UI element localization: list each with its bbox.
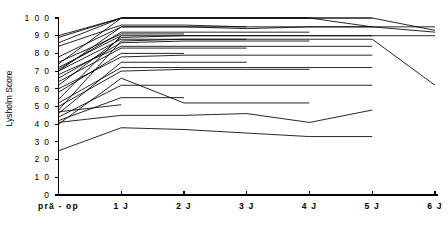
chart-canvas: 01 02 03 04 05 06 07 08 09 01 0 0 Lyshol… <box>0 0 448 237</box>
y-tick-label-50: 5 0 <box>34 101 50 111</box>
y-axis-group: 01 02 03 04 05 06 07 08 09 01 0 0 Lyshol… <box>4 13 59 200</box>
y-tick-label-90: 9 0 <box>34 30 50 40</box>
y-tick-label-100: 1 0 0 <box>25 13 51 23</box>
series-patient-25 <box>59 53 185 92</box>
x-tick-label-6: 6 J <box>427 201 442 211</box>
y-tick-label-60: 6 0 <box>34 84 50 94</box>
y-tick-marks <box>55 18 59 195</box>
series-patient-14 <box>59 128 373 151</box>
y-tick-label-40: 4 0 <box>34 119 50 129</box>
lysholm-score-chart: 01 02 03 04 05 06 07 08 09 01 0 0 Lyshol… <box>0 0 448 237</box>
series-patient-10 <box>59 55 373 89</box>
x-tick-labels: prä - op1 J2 J3 J4 J5 J6 J <box>38 201 443 211</box>
x-tick-label-3: 3 J <box>239 201 254 211</box>
x-tick-label-4: 4 J <box>302 201 317 211</box>
x-tick-label-2: 2 J <box>176 201 191 211</box>
y-tick-label-30: 3 0 <box>34 137 50 147</box>
y-tick-label-0: 0 <box>44 190 50 200</box>
x-tick-label-1: 1 J <box>114 201 129 211</box>
y-axis-title: Lysholm Score <box>4 70 14 126</box>
y-tick-label-80: 8 0 <box>34 48 50 58</box>
y-tick-label-10: 1 0 <box>34 172 50 182</box>
x-tick-label-5: 5 J <box>365 201 380 211</box>
series-patient-09 <box>59 46 373 74</box>
y-tick-labels: 01 02 03 04 05 06 07 08 09 01 0 0 <box>25 13 51 200</box>
x-tick-label-0: prä - op <box>38 201 79 211</box>
y-tick-label-70: 7 0 <box>34 66 50 76</box>
series-patient-18 <box>59 69 310 106</box>
series-patient-16 <box>59 32 310 69</box>
series-patient-26 <box>59 98 185 121</box>
y-tick-label-20: 2 0 <box>34 154 50 164</box>
series-lines <box>59 18 436 151</box>
series-patient-13 <box>59 110 373 122</box>
x-axis-group: prä - op1 J2 J3 J4 J5 J6 J <box>38 191 443 211</box>
